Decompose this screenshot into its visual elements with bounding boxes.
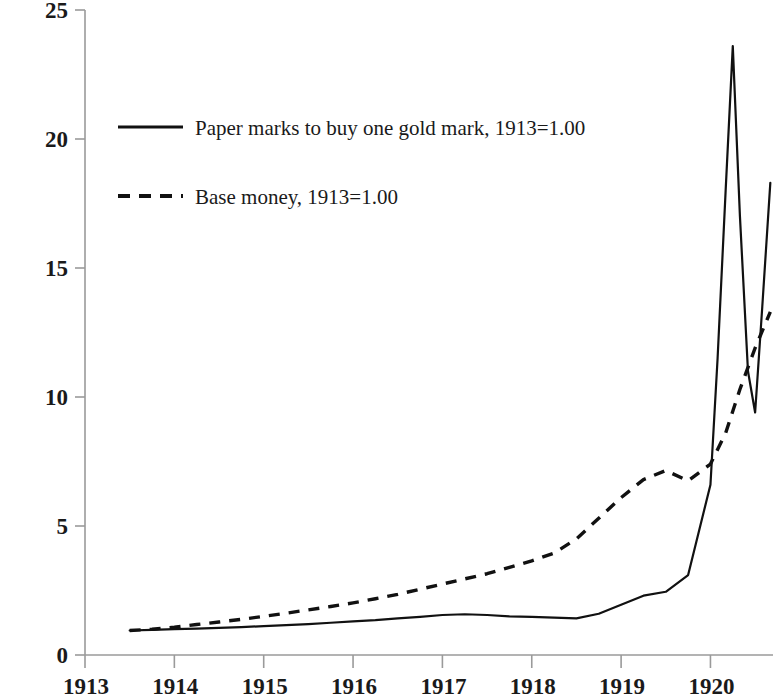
x-tick-label-1915: 1915: [242, 674, 288, 698]
x-tick-label-1919: 1919: [599, 674, 645, 698]
legend-label-paper-marks: Paper marks to buy one gold mark, 1913=1…: [195, 116, 585, 140]
series-base-money-line: [130, 312, 771, 631]
y-tick-label-5: 5: [57, 514, 69, 539]
y-tick-label-15: 15: [45, 256, 68, 281]
x-axis-ticks: [85, 655, 710, 668]
x-axis-tick-labels: 19131914191519161917191819191920: [63, 674, 734, 698]
x-tick-label-1920: 1920: [688, 674, 734, 698]
x-tick-label-1918: 1918: [510, 674, 556, 698]
x-tick-label-1916: 1916: [331, 674, 377, 698]
y-tick-label-25: 25: [45, 0, 68, 23]
y-tick-label-20: 20: [45, 127, 68, 152]
y-tick-label-10: 10: [45, 385, 68, 410]
y-axis-tick-labels: 0510152025: [45, 0, 68, 668]
x-tick-label-1914: 1914: [152, 674, 199, 698]
x-tick-label-1913: 1913: [63, 674, 109, 698]
chart-figure: 0510152025 19131914191519161917191819191…: [0, 0, 773, 698]
x-tick-label-1917: 1917: [420, 674, 466, 698]
y-axis-ticks: [75, 10, 85, 655]
line-chart-canvas: 0510152025 19131914191519161917191819191…: [0, 0, 773, 698]
y-tick-label-0: 0: [57, 643, 69, 668]
legend: Paper marks to buy one gold mark, 1913=1…: [118, 116, 585, 209]
legend-label-base-money: Base money, 1913=1.00: [195, 185, 398, 209]
